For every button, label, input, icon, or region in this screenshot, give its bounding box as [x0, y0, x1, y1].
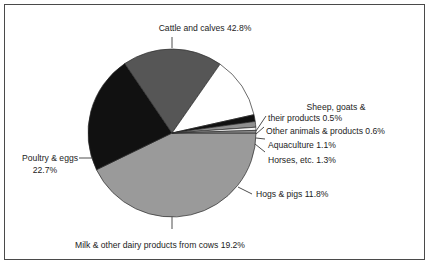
slice-label-poultry-line2: 22.7% — [33, 165, 58, 175]
leader-line-aquaculture — [256, 138, 265, 139]
slice-label-horses: Horses, etc. 1.3% — [268, 155, 336, 165]
slice-label-cattle: Cattle and calves 42.8% — [159, 23, 252, 33]
pie-chart-canvas: Cattle and calves 42.8% Sheep, goats & t… — [0, 0, 432, 273]
leader-line-sheep — [256, 116, 266, 131]
leader-line-other-animals — [256, 127, 264, 134]
leader-line-hogs — [238, 187, 252, 194]
leader-line-horses — [255, 144, 265, 152]
slice-label-milk: Milk & other dairy products from cows 19… — [75, 240, 245, 250]
slice-label-poultry-line1: Poultry & eggs — [22, 153, 78, 163]
pie-chart-figure: Cattle and calves 42.8% Sheep, goats & t… — [0, 0, 432, 273]
slice-label-sheep-line1: Sheep, goats & — [307, 102, 366, 112]
slice-label-aquaculture: Aquaculture 1.1% — [268, 140, 336, 150]
slice-label-other-animals: Other animals & products 0.6% — [266, 126, 385, 136]
pie-slices-group — [88, 49, 256, 217]
slice-label-sheep-line2: their products 0.5% — [268, 113, 342, 123]
slice-label-hogs: Hogs & pigs 11.8% — [256, 189, 329, 199]
